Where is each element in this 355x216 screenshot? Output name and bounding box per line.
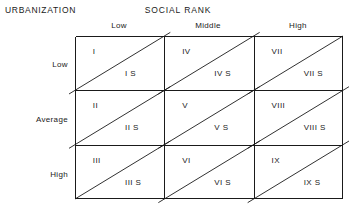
cell-label-lower: VII S bbox=[304, 69, 323, 78]
cell-label-upper: III bbox=[93, 156, 101, 165]
grid-lines bbox=[75, 36, 343, 199]
row-header-high: High bbox=[50, 170, 68, 179]
cell-label-lower: V S bbox=[214, 123, 228, 132]
urbanization-axis-title: URBANIZATION bbox=[5, 5, 76, 15]
cell-label-upper: II bbox=[93, 101, 98, 110]
cell-label-lower: VI S bbox=[214, 178, 231, 187]
cell-diagonal bbox=[248, 141, 349, 203]
typology-grid: II SIVIV SVIIVII SIIII SVV SVIIIVIII SII… bbox=[75, 36, 343, 199]
cell-label-lower: I S bbox=[125, 69, 136, 78]
cell-label-upper: VIII bbox=[272, 101, 286, 110]
cell-diagonal bbox=[158, 141, 259, 203]
cell-label-lower: VIII S bbox=[304, 123, 326, 132]
cell-label-upper: IV bbox=[182, 47, 190, 56]
cell-label-upper: VII bbox=[272, 47, 283, 56]
column-header-low: Low bbox=[111, 21, 127, 30]
column-header-high: High bbox=[289, 21, 307, 30]
cell-diagonal bbox=[158, 87, 259, 149]
cell-label-upper: I bbox=[93, 47, 96, 56]
social-rank-axis-title: SOCIAL RANK bbox=[145, 5, 212, 15]
cell-label-lower: III S bbox=[125, 178, 141, 187]
row-header-average: Average bbox=[36, 115, 68, 124]
cell-diagonal bbox=[69, 87, 170, 149]
cell-label-upper: V bbox=[182, 101, 188, 110]
column-header-middle: Middle bbox=[195, 21, 221, 30]
cell-diagonal bbox=[75, 141, 170, 199]
cell-diagonal bbox=[248, 36, 343, 94]
cell-label-lower: IX S bbox=[304, 178, 321, 187]
cell-diagonal bbox=[69, 32, 170, 94]
cell-label-lower: II S bbox=[125, 123, 139, 132]
cell-diagonal bbox=[248, 87, 349, 149]
diagram-canvas: URBANIZATION SOCIAL RANK Low Middle High… bbox=[0, 0, 355, 216]
cell-label-upper: VI bbox=[182, 156, 190, 165]
cell-label-upper: IX bbox=[272, 156, 280, 165]
cell-label-lower: IV S bbox=[214, 69, 231, 78]
row-header-low: Low bbox=[52, 60, 68, 69]
cell-diagonal bbox=[158, 32, 259, 94]
